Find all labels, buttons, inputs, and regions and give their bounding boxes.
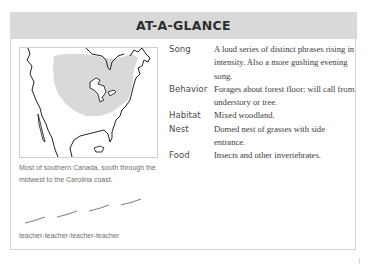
fact-label: Habitat (169, 109, 214, 122)
fact-nest: Nest Domed nest of grasses with side ent… (169, 123, 357, 150)
fact-label: Behavior (169, 83, 214, 96)
fact-behavior: Behavior Forages about forest floor; wil… (169, 83, 357, 110)
fact-value: A loud series of distinct phrases rising… (214, 43, 357, 83)
card-header: AT-A-GLANCE (10, 12, 357, 39)
fact-value: Mixed woodland. (214, 109, 357, 122)
fact-value: Forages about forest floor; will call fr… (214, 83, 357, 110)
fact-label: Nest (169, 123, 214, 136)
fact-label: Song (169, 43, 214, 56)
page-edge-mark (359, 258, 360, 264)
range-map (19, 47, 158, 158)
fact-habitat: Habitat Mixed woodland. (169, 109, 357, 122)
fact-value: Domed nest of grasses with side entrance… (214, 123, 357, 150)
facts-list: Song A loud series of distinct phrases r… (169, 43, 357, 163)
fact-song: Song A loud series of distinct phrases r… (169, 43, 357, 83)
sonogram-icon (23, 197, 163, 227)
fact-value: Insects and other invertebrates. (214, 149, 357, 162)
range-caption: Most of southern Canada, south through t… (19, 162, 157, 186)
fact-food: Food Insects and other invertebrates. (169, 149, 357, 162)
range-map-icon (20, 48, 157, 157)
fact-label: Food (169, 149, 214, 162)
song-caption: teacher-teacher-teacher-teacher (19, 231, 119, 240)
at-a-glance-card: AT-A-GLANCE Most of southern Canada, sou… (10, 12, 356, 250)
card-title: AT-A-GLANCE (136, 18, 231, 33)
